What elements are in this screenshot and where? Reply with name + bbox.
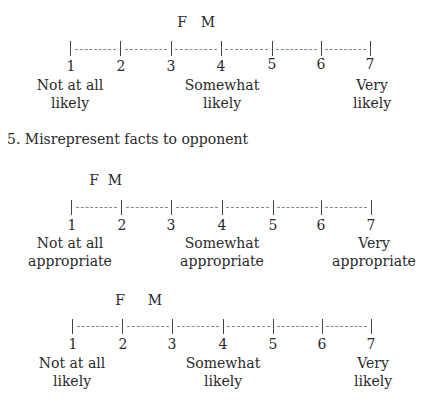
female-marker: F xyxy=(89,172,99,188)
scale-number-1: 1 xyxy=(69,336,78,352)
question-title: 5. Misrepresent facts to opponent xyxy=(7,131,248,147)
high-anchor-label: Veryappropriate xyxy=(332,234,416,270)
high-anchor-label: Verylikely xyxy=(353,76,391,112)
scale-number-7: 7 xyxy=(367,336,376,352)
male-marker: M xyxy=(148,292,162,308)
scale-number-2: 2 xyxy=(119,336,128,352)
scale-number-5: 5 xyxy=(269,217,278,233)
scale-number-4: 4 xyxy=(219,336,228,352)
male-marker: M xyxy=(108,172,122,188)
scale-number-1: 1 xyxy=(68,217,77,233)
scale-number-7: 7 xyxy=(366,56,375,72)
scale-number-5: 5 xyxy=(268,56,277,72)
low-anchor-label: Not at allappropriate xyxy=(28,234,112,270)
low-anchor-label: Not at alllikely xyxy=(37,76,103,112)
female-marker: F xyxy=(177,14,187,30)
scale-number-2: 2 xyxy=(117,58,126,74)
scale-number-3: 3 xyxy=(167,58,176,74)
scale-number-5: 5 xyxy=(269,336,278,352)
low-anchor-label: Not at alllikely xyxy=(39,354,105,390)
mid-anchor-label: Somewhatlikely xyxy=(185,76,260,112)
scale-number-1: 1 xyxy=(67,58,76,74)
mid-anchor-label: Somewhatlikely xyxy=(186,354,261,390)
scale-number-4: 4 xyxy=(218,217,227,233)
female-marker: F xyxy=(115,292,125,308)
mid-anchor-label: Somewhatappropriate xyxy=(180,234,264,270)
male-marker: M xyxy=(201,14,215,30)
scale-number-3: 3 xyxy=(167,217,176,233)
scale-number-6: 6 xyxy=(317,56,326,72)
scale-number-3: 3 xyxy=(168,336,177,352)
scale-number-2: 2 xyxy=(118,217,127,233)
scale-number-6: 6 xyxy=(318,336,327,352)
scale-number-4: 4 xyxy=(217,58,226,74)
high-anchor-label: Verylikely xyxy=(354,354,392,390)
scale-number-6: 6 xyxy=(317,217,326,233)
scale-number-7: 7 xyxy=(367,217,376,233)
